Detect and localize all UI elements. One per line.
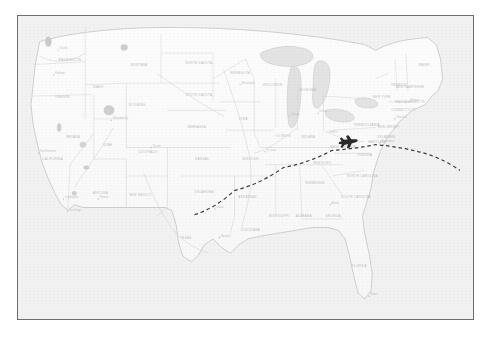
lake-mead	[83, 165, 89, 169]
state-label: MAINE	[419, 62, 430, 67]
city-dot	[408, 101, 409, 103]
great-salt-lake	[104, 105, 115, 115]
state-label: IOWA	[239, 117, 248, 122]
page-canvas: WASHINGTONOREGONIDAHOMONTANANORTH DAKOTA…	[0, 0, 492, 337]
state-label: WASHINGTON	[59, 58, 82, 63]
city-dot	[111, 120, 112, 122]
state-label: FLORIDA	[352, 264, 367, 269]
map-frame: WASHINGTONOREGONIDAHOMONTANANORTH DAKOTA…	[17, 15, 474, 320]
state-label: KANSAS	[195, 157, 209, 162]
city-dot	[98, 198, 99, 200]
state-label: NEW HAMPSHIRE	[396, 85, 425, 90]
state-label: NEW JERSEY	[377, 125, 399, 130]
state-label: ILLINOIS	[276, 134, 291, 139]
city-label: Miami	[371, 292, 378, 297]
city-dot	[379, 142, 380, 144]
city-dot	[239, 84, 240, 86]
state-label: WYOMING	[129, 102, 146, 107]
city-label: Seattle	[60, 46, 68, 51]
state-label: CALIFORNIA	[42, 157, 63, 162]
state-label: NORTH DAKOTA	[186, 61, 213, 66]
city-label: St. Louis	[267, 148, 277, 153]
city-label: Minneapolis	[242, 80, 256, 85]
state-label: MONTANA	[131, 62, 148, 67]
city-label: Portland	[55, 70, 65, 75]
state-label: OKLAHOMA	[195, 189, 214, 194]
city-label: Washington	[381, 139, 394, 144]
city-dot	[219, 237, 220, 239]
city-label: Boston	[411, 98, 419, 103]
state-label: COLORADO	[138, 149, 157, 154]
city-dot	[264, 151, 265, 153]
city-label: New York	[397, 115, 408, 120]
state-label: TENNESSEE	[305, 181, 326, 186]
state-label: MISSOURI	[242, 157, 259, 162]
city-label: Salt Lake City	[113, 116, 129, 121]
us-map-illustration: WASHINGTONOREGONIDAHOMONTANANORTH DAKOTA…	[18, 16, 473, 319]
state-label: VIRGINIA	[357, 152, 373, 157]
state-label: PENNSYLVANIA	[354, 122, 380, 127]
city-label: Detroit	[320, 109, 327, 114]
dry-lake-2	[121, 44, 128, 50]
state-label: KENTUCKY	[313, 161, 332, 166]
city-dot	[53, 74, 54, 76]
state-label: NEW YORK	[373, 95, 392, 100]
state-label: SOUTH CAROLINA	[341, 195, 372, 200]
city-dot	[215, 208, 216, 210]
city-label: Atlanta	[332, 200, 340, 205]
state-label: MISSISSIPPI	[269, 214, 290, 219]
state-label: NEW MEXICO	[129, 192, 151, 197]
city-label: San Diego	[69, 208, 81, 213]
state-label: OREGON	[55, 95, 70, 100]
city-dot	[329, 204, 330, 206]
state-label: ARKANSAS	[239, 195, 258, 200]
city-label: Denver	[153, 143, 161, 148]
city-label: San Francisco	[40, 149, 56, 154]
city-dot	[38, 152, 39, 154]
lake-tahoe	[57, 123, 61, 132]
state-label: INDIANA	[301, 135, 315, 140]
city-dot	[63, 198, 64, 200]
city-label: Dallas	[217, 205, 224, 210]
state-label: MINNESOTA	[230, 71, 250, 76]
state-label: NORTH CAROLINA	[347, 174, 378, 179]
state-label: NEVADA	[66, 135, 80, 140]
city-label: Chicago	[290, 112, 299, 117]
state-label: SOUTH DAKOTA	[186, 92, 213, 97]
state-label: UTAH	[103, 142, 112, 147]
state-label: MICHIGAN	[300, 88, 317, 93]
city-dot	[67, 211, 68, 213]
puget-sound	[45, 37, 51, 47]
city-dot	[317, 112, 318, 114]
city-label: Phoenix	[100, 195, 109, 200]
state-label: OHIO	[329, 129, 338, 134]
state-label: LOUISIANA	[242, 228, 261, 233]
state-label: ALABAMA	[296, 214, 312, 219]
city-dot	[368, 295, 369, 297]
state-label: CONNECTICUT	[391, 108, 416, 113]
city-label: Houston	[221, 233, 231, 238]
state-label: IDAHO	[93, 85, 104, 90]
state-label: TEXAS	[180, 235, 191, 240]
state-label: NEBRASKA	[188, 125, 207, 130]
city-dot	[394, 118, 395, 120]
city-dot	[151, 147, 152, 149]
city-dot	[288, 115, 289, 117]
state-label: GEORGIA	[325, 214, 341, 219]
city-dot	[57, 50, 58, 52]
city-label: Los Angeles	[65, 195, 79, 200]
state-label: WISCONSIN	[263, 82, 283, 87]
